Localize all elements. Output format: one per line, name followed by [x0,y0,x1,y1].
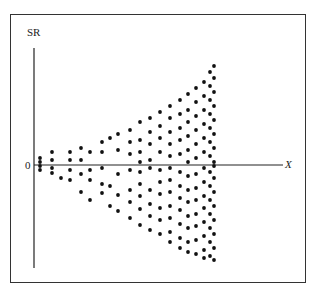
data-point [148,214,152,218]
data-point [202,206,206,210]
data-point [178,222,182,226]
data-point [212,104,216,108]
data-point [194,212,198,216]
data-point [148,158,152,162]
data-point [202,248,206,252]
data-point [68,150,72,154]
data-point [178,98,182,102]
data-point [138,182,142,186]
data-point [208,98,212,102]
data-point [168,178,172,182]
data-point [178,112,182,116]
data-point [202,122,206,126]
data-point [178,246,182,250]
data-point [194,114,198,118]
data-point [79,190,83,194]
data-point [194,128,198,132]
data-point [50,158,54,162]
data-point [128,216,132,220]
data-point [158,232,162,236]
data-point [178,126,182,130]
data-point [178,170,182,174]
data-point [158,206,162,210]
data-point [148,188,152,192]
data-point [212,164,216,168]
data-point [194,156,198,160]
data-point [168,130,172,134]
data-point [158,180,162,184]
data-point [108,184,112,188]
data-point [168,204,172,208]
data-point [212,90,216,94]
data-point [208,254,212,258]
data-point [100,150,104,154]
data-point [186,214,190,218]
data-point [38,156,42,160]
data-point [50,166,54,170]
data-point [202,150,206,154]
data-point [208,126,212,130]
data-point [116,172,120,176]
data-point [202,180,206,184]
data-point [158,192,162,196]
data-point [208,240,212,244]
data-point [208,140,212,144]
data-point [208,226,212,230]
data-point [108,136,112,140]
data-point [186,134,190,138]
x-axis-label: X [285,158,292,170]
data-point [202,136,206,140]
data-point [50,150,54,154]
data-point [79,158,83,162]
data-point [68,158,72,162]
data-point [194,186,198,190]
data-point [116,132,120,136]
data-point [128,152,132,156]
data-point [38,160,42,164]
data-point [68,168,72,172]
data-point [148,116,152,120]
data-point [59,176,63,180]
data-point [100,191,104,195]
data-point [168,142,172,146]
data-point [212,218,216,222]
data-point [186,174,190,178]
data-point [138,170,142,174]
data-point [194,198,198,202]
data-point [138,223,142,227]
data-point [202,94,206,98]
data-point [128,188,132,192]
data-point [212,204,216,208]
data-point [212,258,216,262]
data-point [186,92,190,96]
data-point [79,172,83,176]
y-axis-label: SR [27,26,40,38]
data-point [168,230,172,234]
data-point [202,166,206,170]
data-point [88,178,92,182]
data-point [186,200,190,204]
data-point [202,220,206,224]
scatter-plot [0,0,322,294]
data-point [178,138,182,142]
data-point [208,184,212,188]
data-point [212,118,216,122]
data-point [158,168,162,172]
data-point [208,170,212,174]
data-point [116,209,120,213]
data-point [212,176,216,180]
data-point [168,190,172,194]
data-point [138,160,142,164]
data-point [186,148,190,152]
data-point [168,104,172,108]
origin-label: 0 [25,159,31,171]
data-point [138,150,142,154]
data-point [100,166,104,170]
data-point [88,150,92,154]
data-point [178,152,182,156]
data-point [100,182,104,186]
data-point [148,130,152,134]
data-point [50,171,54,175]
data-point [138,207,142,211]
data-point [202,234,206,238]
